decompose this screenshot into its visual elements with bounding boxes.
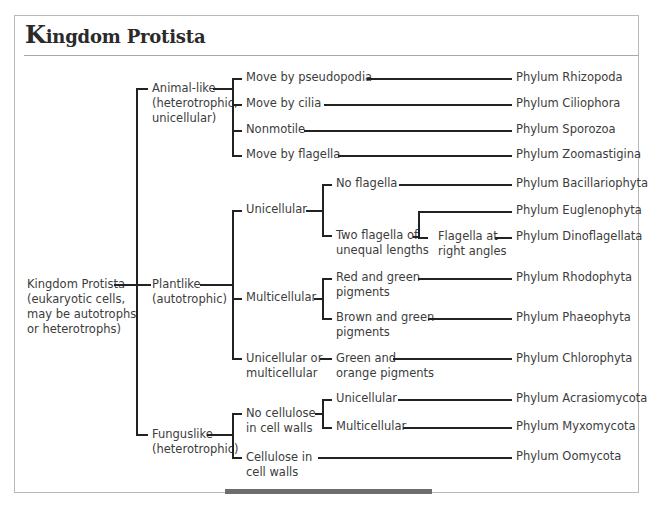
connector bbox=[207, 434, 233, 436]
connector bbox=[418, 278, 512, 280]
trait-label: pigments bbox=[336, 285, 420, 300]
connector bbox=[322, 278, 324, 319]
group-desc: unicellular) bbox=[152, 111, 238, 126]
connector bbox=[304, 130, 512, 132]
connector bbox=[306, 210, 323, 212]
connector bbox=[232, 155, 242, 157]
trait-label: pigments bbox=[336, 325, 434, 340]
trait-label: unequal lengths bbox=[336, 243, 429, 258]
phylum-label: Phylum Bacillariophyta bbox=[516, 176, 648, 191]
trait-label: Unicellular or bbox=[246, 351, 322, 366]
connector bbox=[200, 284, 233, 286]
root-desc-1: (eukaryotic cells, bbox=[27, 292, 136, 307]
connector bbox=[338, 155, 512, 157]
connector bbox=[232, 210, 234, 359]
connector bbox=[399, 184, 512, 186]
trait-label: multicellular bbox=[246, 366, 322, 381]
trait-label: in cell walls bbox=[246, 421, 316, 436]
connector bbox=[403, 427, 512, 429]
connector bbox=[418, 237, 428, 239]
connector bbox=[232, 413, 234, 458]
connector bbox=[322, 184, 332, 186]
connector bbox=[232, 457, 242, 459]
title-divider bbox=[24, 55, 638, 56]
connector bbox=[322, 184, 324, 236]
trait-two-flagella: Two flagella of unequal lengths bbox=[336, 228, 429, 258]
phylum-label: Phylum Chlorophyta bbox=[516, 351, 632, 366]
connector bbox=[232, 298, 242, 300]
trait-label: Nonmotile bbox=[246, 122, 305, 137]
title-initial: K bbox=[25, 20, 46, 49]
connector bbox=[322, 399, 332, 401]
connector bbox=[213, 88, 233, 90]
trait-label: No flagella bbox=[336, 176, 397, 191]
trait-label: cell walls bbox=[246, 465, 312, 480]
trait-red-green: Red and green pigments bbox=[336, 270, 420, 300]
trait-label: right angles bbox=[438, 244, 507, 259]
connector bbox=[398, 399, 512, 401]
root-desc-3: or heterotrophs) bbox=[27, 322, 136, 337]
connector bbox=[136, 434, 148, 436]
trait-label: orange pigments bbox=[336, 366, 434, 381]
connector bbox=[232, 78, 242, 80]
group-desc: (heterotrophic, bbox=[152, 96, 238, 111]
group-plantlike: Plantlike (autotrophic) bbox=[152, 277, 227, 307]
connector bbox=[322, 427, 332, 429]
phylum-label: Phylum Oomycota bbox=[516, 449, 621, 464]
connector bbox=[428, 318, 512, 320]
trait-label: Brown and green bbox=[336, 310, 434, 325]
root-node: Kingdom Protista (eukaryotic cells, may … bbox=[27, 277, 136, 337]
group-funguslike: Funguslike (heterotrophic) bbox=[152, 427, 239, 457]
trait-cellulose: Cellulose in cell walls bbox=[246, 450, 312, 480]
trait-label: Unicellular bbox=[336, 391, 397, 406]
connector bbox=[322, 399, 324, 428]
phylum-label: Phylum Euglenophyta bbox=[516, 203, 642, 218]
phylum-label: Phylum Myxomycota bbox=[516, 419, 636, 434]
trait-no-cellulose: No cellulose in cell walls bbox=[246, 406, 316, 436]
connector bbox=[232, 104, 242, 106]
connector bbox=[367, 78, 512, 80]
phylum-label: Phylum Ciliophora bbox=[516, 96, 620, 111]
phylum-label: Phylum Acrasiomycota bbox=[516, 391, 647, 406]
phylum-label: Phylum Dinoflagellata bbox=[516, 229, 642, 244]
phylum-label: Phylum Phaeophyta bbox=[516, 310, 631, 325]
phylum-label: Phylum Zoomastigina bbox=[516, 147, 641, 162]
root-desc-2: may be autotrophs bbox=[27, 307, 136, 322]
connector bbox=[495, 237, 512, 239]
group-desc: (autotrophic) bbox=[152, 292, 227, 307]
connector bbox=[324, 104, 512, 106]
connector bbox=[393, 358, 512, 360]
connector bbox=[232, 78, 234, 156]
connector bbox=[232, 210, 242, 212]
connector bbox=[418, 211, 512, 213]
page-title: Kingdom Protista bbox=[25, 20, 205, 49]
phylum-label: Phylum Rhizopoda bbox=[516, 70, 623, 85]
trait-label: Move by flagella bbox=[246, 147, 340, 162]
connector bbox=[232, 130, 242, 132]
trait-label: No cellulose bbox=[246, 406, 316, 421]
connector bbox=[232, 358, 242, 360]
trait-label: Unicellular bbox=[246, 202, 307, 217]
trait-either: Unicellular or multicellular bbox=[246, 351, 322, 381]
connector bbox=[322, 235, 332, 237]
connector bbox=[418, 211, 420, 238]
trait-right-angles: Flagella at right angles bbox=[438, 229, 507, 259]
title-text: ingdom Protista bbox=[46, 26, 206, 47]
footer-bar bbox=[225, 489, 432, 494]
connector bbox=[318, 457, 512, 459]
trait-label: Multicellular bbox=[246, 290, 316, 305]
phylum-label: Phylum Rhodophyta bbox=[516, 270, 632, 285]
trait-label: Cellulose in bbox=[246, 450, 312, 465]
trait-label: Red and green bbox=[336, 270, 420, 285]
connector bbox=[114, 284, 151, 286]
trait-label: Move by pseudopodia bbox=[246, 70, 372, 85]
trait-brown-green: Brown and green pigments bbox=[336, 310, 434, 340]
connector bbox=[322, 318, 332, 320]
connector bbox=[136, 88, 148, 90]
phylum-label: Phylum Sporozoa bbox=[516, 122, 616, 137]
trait-green-orange: Green and orange pigments bbox=[336, 351, 434, 381]
trait-label: Move by cilia bbox=[246, 96, 321, 111]
trait-label: Multicellular bbox=[336, 419, 406, 434]
connector bbox=[232, 413, 242, 415]
connector bbox=[320, 358, 332, 360]
